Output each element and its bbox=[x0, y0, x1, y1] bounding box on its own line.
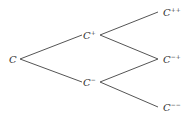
node-up: C+ bbox=[83, 30, 96, 41]
node-down-base: C bbox=[83, 77, 91, 88]
node-downdown: C−− bbox=[163, 102, 181, 113]
node-upup-base: C bbox=[163, 7, 171, 18]
node-root: C bbox=[9, 54, 17, 65]
node-downup-sup: −+ bbox=[171, 53, 181, 60]
node-downdown-base: C bbox=[163, 102, 171, 113]
node-down-sup: − bbox=[91, 76, 96, 83]
node-upup: C++ bbox=[163, 7, 181, 18]
node-up-sup: + bbox=[91, 29, 96, 36]
node-downup-base: C bbox=[163, 54, 171, 65]
node-downup: C−+ bbox=[163, 54, 181, 65]
node-upup-sup: ++ bbox=[171, 6, 181, 13]
node-down: C− bbox=[83, 77, 96, 88]
edge-up-downup bbox=[100, 35, 158, 59]
edge-down-downup bbox=[100, 59, 158, 82]
tree-edges bbox=[0, 0, 187, 117]
node-downdown-sup: −− bbox=[171, 101, 181, 108]
node-root-base: C bbox=[9, 54, 17, 65]
edge-root-up bbox=[20, 35, 82, 59]
edge-root-down bbox=[20, 59, 82, 82]
edge-down-downdown bbox=[100, 82, 158, 107]
node-up-base: C bbox=[83, 30, 91, 41]
edge-up-upup bbox=[100, 12, 158, 35]
